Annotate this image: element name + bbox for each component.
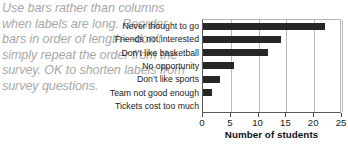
category-label: Team not good enough xyxy=(116,86,199,99)
category-label: Don’t like sports xyxy=(116,73,199,86)
category-axis-labels: Never thought to goFriends not intereste… xyxy=(110,19,199,113)
x-axis-title: Number of students xyxy=(202,129,341,140)
tick-label: 10 xyxy=(252,117,263,128)
bar xyxy=(203,62,234,69)
bar xyxy=(203,23,325,30)
bar-chart: Never thought to goFriends not intereste… xyxy=(110,14,348,161)
bar-row xyxy=(203,33,340,46)
bar-row xyxy=(203,99,340,112)
bar-row xyxy=(203,73,340,86)
gridline xyxy=(342,20,343,112)
bar-row xyxy=(203,20,340,33)
bar xyxy=(203,89,212,96)
category-label: Don’t like basketball xyxy=(116,46,199,59)
tick-label: 0 xyxy=(199,117,204,128)
category-label: Tickets cost too much xyxy=(116,100,199,113)
tick-label: 20 xyxy=(308,117,319,128)
bar-row xyxy=(203,46,340,59)
bar xyxy=(203,49,268,56)
category-label: No opportunity xyxy=(116,59,199,72)
tick-label: 15 xyxy=(280,117,291,128)
category-label: Friends not interested xyxy=(116,32,199,45)
plot-area xyxy=(202,19,341,113)
category-label: Never thought to go xyxy=(116,19,199,32)
x-axis-ticks: 0510152025 xyxy=(202,113,341,129)
bar-series xyxy=(203,20,340,112)
bar-row xyxy=(203,86,340,99)
bar xyxy=(203,36,281,43)
tick-label: 5 xyxy=(227,117,232,128)
tick-label: 25 xyxy=(336,117,347,128)
bar-row xyxy=(203,59,340,72)
bar xyxy=(203,76,220,83)
